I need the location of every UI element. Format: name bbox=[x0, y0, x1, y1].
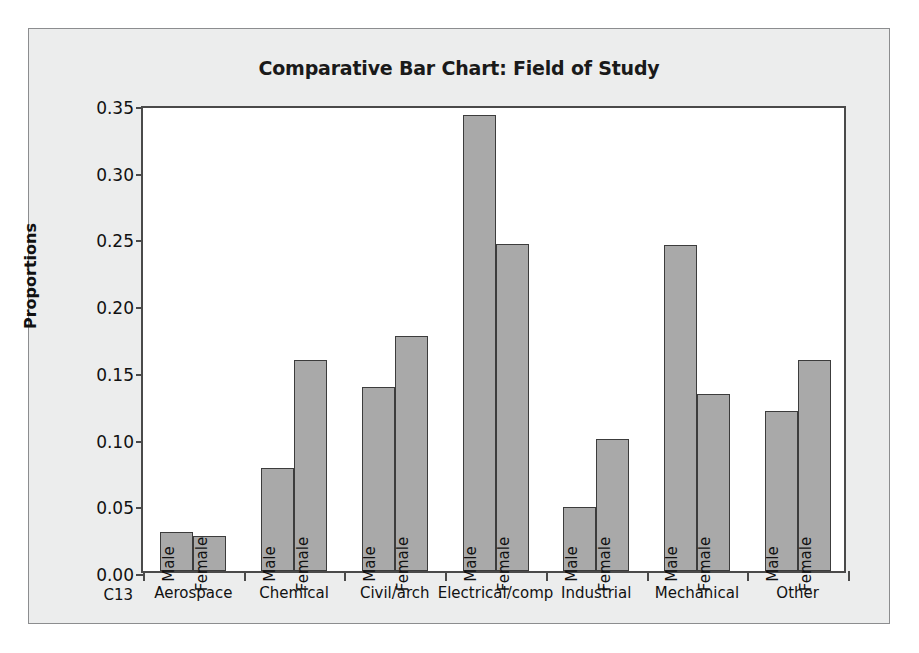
bar-female: Female bbox=[395, 336, 428, 571]
bar-female: Female bbox=[697, 394, 730, 571]
bar-label: Female bbox=[698, 537, 713, 591]
x-axis-tick-mark bbox=[445, 571, 447, 581]
plot-area: 0.000.050.100.150.200.250.300.35 MaleFem… bbox=[141, 106, 846, 573]
bar-male: Male bbox=[160, 532, 193, 571]
y-axis-tick-mark bbox=[136, 574, 143, 576]
chart-page: Comparative Bar Chart: Field of Study Pr… bbox=[0, 0, 919, 653]
x-axis-tick-mark bbox=[848, 571, 850, 581]
bar-group: MaleFemale bbox=[160, 108, 226, 571]
x-axis-category-label: Mechanical bbox=[655, 584, 739, 602]
x-axis-category-label: Aerospace bbox=[154, 584, 232, 602]
bar-male: Male bbox=[664, 245, 697, 571]
x-axis-category-label: Industrial bbox=[561, 584, 631, 602]
x-axis-category-label: Chemical bbox=[259, 584, 329, 602]
bar-male: Male bbox=[563, 507, 596, 571]
x-axis-tick-mark bbox=[647, 571, 649, 581]
x-axis-tick-mark bbox=[546, 571, 548, 581]
bar-female: Female bbox=[798, 360, 831, 571]
bar-label: Male bbox=[363, 546, 378, 582]
bar-female: Female bbox=[596, 439, 629, 571]
bar-male: Male bbox=[765, 411, 798, 571]
bar-group: MaleFemale bbox=[362, 108, 428, 571]
bar-label: Female bbox=[799, 537, 814, 591]
bar-group: MaleFemale bbox=[563, 108, 629, 571]
bar-label: Male bbox=[665, 546, 680, 582]
bar-label: Male bbox=[263, 546, 278, 582]
bar-label: Female bbox=[296, 537, 311, 591]
x-axis-variable-name: C13 bbox=[103, 586, 141, 604]
bar-male: Male bbox=[261, 468, 294, 571]
bar-label: Female bbox=[396, 537, 411, 591]
bar-label: Male bbox=[766, 546, 781, 582]
y-axis-tick-mark bbox=[136, 441, 143, 443]
bar-label: Female bbox=[195, 537, 210, 591]
y-axis-title: Proportions bbox=[21, 223, 40, 329]
bar-male: Male bbox=[463, 115, 496, 571]
bar-label: Male bbox=[162, 546, 177, 582]
bar-group: MaleFemale bbox=[765, 108, 831, 571]
bar-female: Female bbox=[193, 536, 226, 571]
x-axis-category-label: Electrical/comp bbox=[438, 584, 554, 602]
bar-female: Female bbox=[496, 244, 529, 571]
bar-label: Female bbox=[598, 537, 613, 591]
bar-label: Male bbox=[565, 546, 580, 582]
bar-label: Male bbox=[464, 546, 479, 582]
bar-male: Male bbox=[362, 387, 395, 571]
x-axis-tick-mark bbox=[747, 571, 749, 581]
bar-group: MaleFemale bbox=[463, 108, 529, 571]
bar-female: Female bbox=[294, 360, 327, 571]
x-axis-category-label: Other bbox=[776, 584, 819, 602]
x-axis-tick-mark bbox=[344, 571, 346, 581]
y-axis-tick-mark bbox=[136, 174, 143, 176]
bar-group: MaleFemale bbox=[261, 108, 327, 571]
x-axis-tick-mark bbox=[143, 571, 145, 581]
bar-label: Female bbox=[497, 537, 512, 591]
x-axis-tick-mark bbox=[244, 571, 246, 581]
bar-series-container: MaleFemaleMaleFemaleMaleFemaleMaleFemale… bbox=[143, 108, 844, 571]
bar-group: MaleFemale bbox=[664, 108, 730, 571]
y-axis-tick-mark bbox=[136, 240, 143, 242]
y-axis-tick-mark bbox=[136, 507, 143, 509]
x-axis-category-label: Civil/arch bbox=[360, 584, 430, 602]
y-axis-tick-mark bbox=[136, 107, 143, 109]
chart-panel: Comparative Bar Chart: Field of Study Pr… bbox=[28, 28, 890, 624]
chart-title: Comparative Bar Chart: Field of Study bbox=[29, 57, 889, 79]
y-axis-tick-mark bbox=[136, 374, 143, 376]
y-axis-tick-mark bbox=[136, 307, 143, 309]
